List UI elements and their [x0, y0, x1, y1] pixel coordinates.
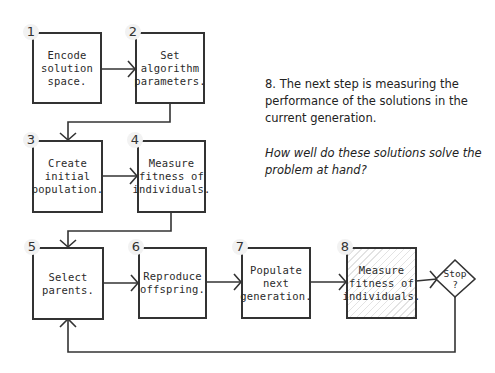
step-5-label: Select parents. — [42, 271, 94, 297]
step-note-question: How well do these solutions solve the pr… — [265, 145, 490, 179]
step-1-number: 1 — [23, 24, 39, 40]
step-2-box: Set algorithm parameters. — [135, 32, 205, 104]
step-2-label: Set algorithm parameters. — [134, 49, 206, 88]
step-6-box: Reproduce offspring. — [138, 247, 207, 319]
step-8-label: Measure fitness of individuals. — [342, 264, 420, 303]
step-7-number: 7 — [232, 239, 248, 255]
stop-decision-label: Stop ? — [437, 268, 473, 290]
step-5-number: 5 — [24, 239, 40, 255]
step-note-text: 8. The next step is measuring the perfor… — [265, 76, 490, 127]
step-6-label: Reproduce offspring. — [140, 270, 205, 296]
step-2-number: 2 — [125, 24, 141, 40]
step-5-box: Select parents. — [32, 247, 104, 320]
step-3-number: 3 — [23, 132, 39, 148]
step-8-box: Measure fitness of individuals. — [346, 247, 417, 319]
step-4-box: Measure fitness of individuals. — [137, 140, 206, 213]
step-3-label: Create initial population. — [32, 157, 104, 196]
step-4-label: Measure fitness of individuals. — [132, 157, 210, 196]
step-6-number: 6 — [128, 239, 144, 255]
step-8-number: 8 — [337, 239, 353, 255]
step-4-number: 4 — [127, 132, 143, 148]
step-1-label: Encode solution space. — [41, 49, 93, 88]
step-7-label: Populate next generation. — [240, 264, 312, 303]
step-1-box: Encode solution space. — [32, 32, 102, 104]
step-3-box: Create initial population. — [32, 140, 103, 213]
step-7-box: Populate next generation. — [241, 247, 311, 319]
